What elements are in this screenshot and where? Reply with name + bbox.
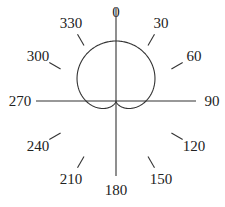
angle-tick-150 (148, 156, 155, 167)
angle-label-300: 300 (27, 48, 50, 64)
polar-plot: 0306090120150180210240270300330 (0, 0, 225, 207)
angle-tick-30 (148, 34, 155, 45)
angle-label-60: 60 (186, 48, 201, 64)
angle-label-120: 120 (183, 138, 206, 154)
angle-tick-240 (49, 133, 60, 140)
angle-label-240: 240 (27, 138, 50, 154)
angle-tick-300 (49, 63, 60, 70)
angle-label-30: 30 (154, 15, 169, 31)
angle-label-180: 180 (105, 182, 128, 198)
angle-label-210: 210 (60, 171, 83, 187)
angle-label-90: 90 (205, 93, 220, 109)
angle-label-270: 270 (9, 93, 32, 109)
angle-tick-210 (78, 156, 85, 167)
angle-tick-120 (171, 133, 182, 140)
angle-label-150: 150 (150, 171, 173, 187)
angle-tick-60 (171, 63, 182, 70)
angle-tick-330 (78, 34, 85, 45)
angle-label-0: 0 (112, 4, 120, 20)
angle-label-330: 330 (60, 15, 83, 31)
